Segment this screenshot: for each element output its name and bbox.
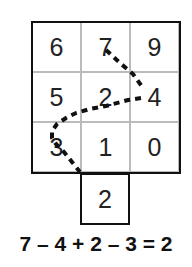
- dotted-path: [0, 0, 192, 267]
- equation: 7 – 4 + 2 – 3 = 2: [0, 232, 192, 256]
